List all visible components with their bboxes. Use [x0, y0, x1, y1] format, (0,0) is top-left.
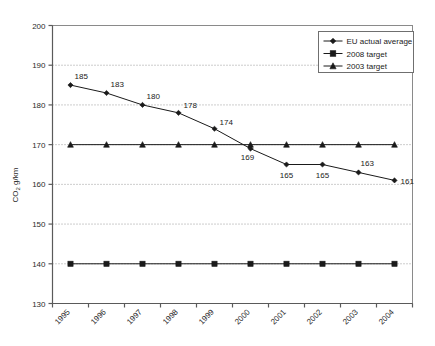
data-label: 169 [241, 153, 255, 162]
y-tick-label: 140 [32, 260, 46, 269]
y-tick-label: 180 [32, 101, 46, 110]
data-label: 165 [280, 171, 294, 180]
data-point-marker [248, 261, 253, 266]
legend-label: EU actual average [347, 37, 413, 46]
data-point-marker [392, 261, 397, 266]
data-label: 161 [401, 177, 415, 186]
y-tick-label: 190 [32, 61, 46, 70]
data-point-marker [104, 261, 109, 266]
y-tick-label: 130 [32, 300, 46, 309]
data-label: 180 [147, 92, 161, 101]
data-point-marker [212, 261, 217, 266]
data-point-marker [176, 261, 181, 266]
data-label: 174 [220, 118, 234, 127]
data-point-marker [320, 261, 325, 266]
data-label: 185 [75, 72, 89, 81]
y-axis-title: CO2 g/km [11, 167, 21, 202]
y-tick-label: 150 [32, 220, 46, 229]
legend-label: 2003 target [347, 62, 388, 71]
legend-label: 2008 target [347, 50, 388, 59]
data-label: 183 [111, 80, 125, 89]
y-tick-label: 160 [32, 180, 46, 189]
data-point-marker [284, 261, 289, 266]
y-axis-title-text: CO2 g/km [11, 167, 21, 202]
data-label: 178 [184, 101, 198, 110]
data-point-marker [356, 261, 361, 266]
chart-canvas: 130140150160170180190200 199519961997199… [0, 0, 435, 346]
y-tick-label: 170 [32, 141, 46, 150]
data-point-marker [140, 261, 145, 266]
data-label: 165 [316, 171, 330, 180]
data-label: 163 [361, 159, 375, 168]
chart-legend: EU actual average2008 target2003 target [319, 32, 414, 73]
data-point-marker [68, 261, 73, 266]
legend-marker-square-icon [330, 51, 336, 57]
y-tick-label: 200 [32, 22, 46, 31]
co2-emissions-line-chart: 130140150160170180190200 199519961997199… [0, 0, 435, 346]
